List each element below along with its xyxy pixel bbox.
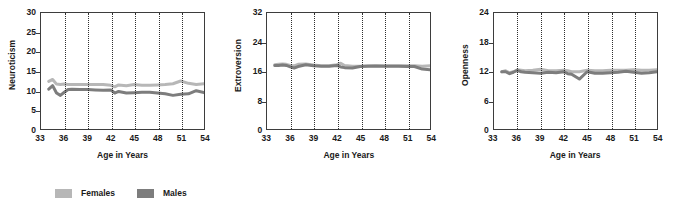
x-tick-label: 48 <box>606 133 615 143</box>
y-axis-tick <box>262 102 267 103</box>
legend-swatch-males <box>137 189 154 198</box>
gridline-vertical <box>362 13 363 129</box>
y-axis-tick <box>36 72 41 73</box>
gridline-vertical <box>564 13 565 129</box>
y-tick-label: 15 <box>27 66 36 76</box>
x-tick-label: 36 <box>59 133 68 143</box>
x-tick-label: 42 <box>559 133 568 143</box>
x-tick-label: 36 <box>511 133 520 143</box>
x-tick-label: 39 <box>535 133 544 143</box>
gridline-vertical <box>541 13 542 129</box>
y-tick-label: 20 <box>27 46 36 56</box>
x-tick-label: 33 <box>35 133 44 143</box>
chart-panel-neuroticism: Neuroticism 051015202530 333639424548515… <box>0 0 226 175</box>
x-axis-label-openness: Age in Years <box>493 150 658 160</box>
legend-item-females: Females <box>55 188 115 198</box>
y-tick-label: 12 <box>479 66 488 76</box>
y-tick-label: 10 <box>27 86 36 96</box>
x-tick-label: 45 <box>582 133 591 143</box>
legend-label-males: Males <box>163 188 187 198</box>
y-axis-tick <box>36 52 41 53</box>
gridline-vertical <box>635 13 636 129</box>
gridline-vertical <box>135 13 136 129</box>
chart-panel-extroversion: Extroversion 08162432 3336394245485154 A… <box>226 0 452 175</box>
gridline-vertical <box>612 13 613 129</box>
y-axis-tick <box>262 43 267 44</box>
gridline-vertical <box>588 13 589 129</box>
gridline-vertical <box>88 13 89 129</box>
x-tick-label: 45 <box>356 133 365 143</box>
gridline-vertical <box>291 13 292 129</box>
x-tick-label: 54 <box>200 133 209 143</box>
x-tick-label: 45 <box>130 133 139 143</box>
legend-item-males: Males <box>137 188 187 198</box>
legend-swatch-females <box>55 189 72 198</box>
x-tick-label: 42 <box>332 133 341 143</box>
y-tick-label: 5 <box>31 105 36 115</box>
y-axis-tick <box>489 43 494 44</box>
x-tick-label: 48 <box>379 133 388 143</box>
x-tick-label: 39 <box>309 133 318 143</box>
x-tick-label: 36 <box>285 133 294 143</box>
gridline-vertical <box>159 13 160 129</box>
x-tick-label: 39 <box>82 133 91 143</box>
y-tick-label: 16 <box>253 66 262 76</box>
y-axis-tick <box>36 33 41 34</box>
legend: Females Males <box>55 188 187 198</box>
y-tick-labels-openness: 06121824 <box>469 12 489 130</box>
x-tick-labels-neuroticism: 3336394245485154 <box>40 133 205 147</box>
y-tick-label: 24 <box>253 37 262 47</box>
x-tick-label: 33 <box>488 133 497 143</box>
x-tick-label: 54 <box>427 133 436 143</box>
x-tick-label: 51 <box>629 133 638 143</box>
y-axis-tick <box>489 102 494 103</box>
y-tick-labels-extroversion: 08162432 <box>242 12 262 130</box>
x-tick-labels-openness: 3336394245485154 <box>493 133 658 147</box>
x-tick-label: 42 <box>106 133 115 143</box>
y-tick-label: 24 <box>479 7 488 17</box>
gridline-vertical <box>65 13 66 129</box>
y-tick-label: 25 <box>27 27 36 37</box>
x-tick-label: 48 <box>153 133 162 143</box>
plot-area-neuroticism <box>40 12 205 130</box>
x-axis-label-extroversion: Age in Years <box>266 150 431 160</box>
y-axis-tick <box>36 92 41 93</box>
y-axis-tick <box>262 72 267 73</box>
x-tick-label: 33 <box>262 133 271 143</box>
gridline-vertical <box>182 13 183 129</box>
y-axis-tick <box>489 72 494 73</box>
series-line-females <box>49 79 204 86</box>
x-tick-label: 54 <box>653 133 662 143</box>
y-axis-tick <box>36 111 41 112</box>
plot-area-extroversion <box>266 12 431 130</box>
y-tick-label: 8 <box>258 96 263 106</box>
gridline-vertical <box>314 13 315 129</box>
chart-panels: Neuroticism 051015202530 333639424548515… <box>0 0 679 175</box>
y-tick-label: 30 <box>27 7 36 17</box>
chart-panel-openness: Openness 06121824 3336394245485154 Age i… <box>453 0 679 175</box>
y-tick-label: 32 <box>253 7 262 17</box>
x-tick-label: 51 <box>177 133 186 143</box>
gridline-vertical <box>112 13 113 129</box>
gridline-vertical <box>409 13 410 129</box>
plot-area-openness <box>493 12 658 130</box>
y-tick-label: 6 <box>484 96 489 106</box>
y-tick-labels-neuroticism: 051015202530 <box>16 12 36 130</box>
x-tick-labels-extroversion: 3336394245485154 <box>266 133 431 147</box>
x-tick-label: 51 <box>403 133 412 143</box>
x-axis-label-neuroticism: Age in Years <box>40 150 205 160</box>
gridline-vertical <box>338 13 339 129</box>
gridline-vertical <box>385 13 386 129</box>
y-tick-label: 18 <box>479 37 488 47</box>
personality-trait-trajectories-figure: Neuroticism 051015202530 333639424548515… <box>0 0 679 211</box>
gridline-vertical <box>517 13 518 129</box>
legend-label-females: Females <box>81 188 115 198</box>
